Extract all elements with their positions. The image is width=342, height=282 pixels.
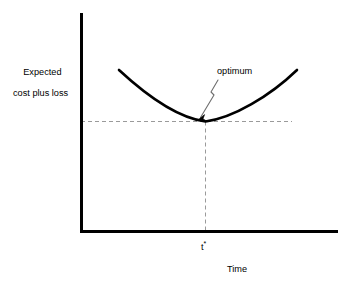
optimum-annotation-label: optimum bbox=[217, 66, 252, 77]
cost-curve bbox=[119, 70, 297, 122]
x-axis-tick-label-t-star: t* bbox=[201, 242, 206, 253]
figure-canvas: Expected cost plus loss optimum t* Time bbox=[0, 0, 342, 282]
t-star-superscript: * bbox=[204, 240, 207, 247]
y-axis-label: Expected cost plus loss bbox=[13, 56, 68, 119]
x-axis-label: Time bbox=[227, 264, 247, 275]
plot-area bbox=[0, 0, 342, 282]
y-axis-label-line1: Expected bbox=[23, 67, 61, 77]
optimum-arrow bbox=[199, 80, 219, 121]
y-axis-label-line2: cost plus loss bbox=[13, 88, 68, 99]
